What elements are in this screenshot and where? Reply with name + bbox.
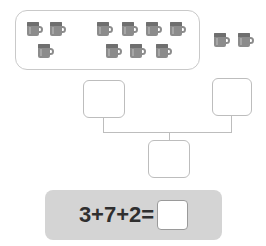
equation-bar: 3+7+2= [45, 190, 222, 240]
mug-highlight [132, 49, 134, 56]
mug-highlight [240, 38, 242, 45]
mug-handle [61, 26, 66, 33]
equation-expression: 3+7+2= [79, 204, 154, 226]
mug-handle [49, 48, 54, 55]
mug-icon [146, 22, 162, 36]
mug-highlight [158, 49, 160, 56]
mug-icon [122, 22, 138, 36]
connector-right-stub [231, 116, 232, 132]
worksheet-page: 3+7+2= [0, 0, 266, 246]
mug-highlight [52, 27, 54, 34]
mug-highlight [124, 27, 126, 34]
number-bond-tree [0, 72, 266, 184]
mug-icon [214, 33, 230, 47]
mug-icon [238, 33, 254, 47]
right-addend-box[interactable] [212, 78, 252, 116]
left-addend-box[interactable] [83, 80, 125, 118]
mug-handle [157, 26, 162, 33]
mug-icon [97, 22, 113, 36]
mug-icon [130, 44, 146, 58]
connector-left-stub [103, 118, 104, 132]
mug-icon [170, 22, 186, 36]
connector-rail [103, 132, 232, 133]
mug-highlight [29, 27, 31, 34]
mug-handle [181, 26, 186, 33]
mug-icon [106, 44, 122, 58]
mug-highlight [108, 49, 110, 56]
equation-answer-box[interactable] [157, 200, 188, 230]
mug-highlight [40, 49, 42, 56]
mug-icon [50, 22, 66, 36]
mug-highlight [216, 38, 218, 45]
mug-handle [117, 48, 122, 55]
mug-handle [225, 37, 230, 44]
mug-handle [167, 48, 172, 55]
mug-highlight [148, 27, 150, 34]
mug-handle [249, 37, 254, 44]
mug-icon [156, 44, 172, 58]
mug-handle [108, 26, 113, 33]
connector-bottom-stub [169, 132, 170, 140]
mug-handle [141, 48, 146, 55]
mug-icon [38, 44, 54, 58]
mug-group-outline [15, 10, 200, 70]
mug-handle [38, 26, 43, 33]
mug-handle [133, 26, 138, 33]
mug-icon [27, 22, 43, 36]
mug-highlight [99, 27, 101, 34]
mug-highlight [172, 27, 174, 34]
total-box[interactable] [148, 140, 190, 178]
